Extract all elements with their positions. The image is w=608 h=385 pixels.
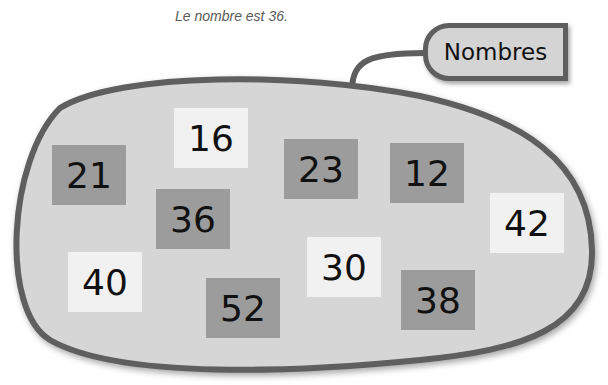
number-box[interactable]: 12: [390, 143, 464, 203]
number-box[interactable]: 52: [206, 278, 280, 338]
nombres-tag: Nombres: [423, 23, 568, 81]
number-box[interactable]: 16: [174, 108, 248, 168]
tag-label: Nombres: [444, 39, 547, 65]
number-box[interactable]: 30: [307, 237, 381, 297]
number-box[interactable]: 38: [401, 270, 475, 330]
number-box[interactable]: 40: [68, 252, 142, 312]
number-box[interactable]: 42: [490, 193, 564, 253]
number-box[interactable]: 23: [284, 139, 358, 199]
number-box[interactable]: 21: [52, 145, 126, 205]
number-box[interactable]: 36: [156, 189, 230, 249]
